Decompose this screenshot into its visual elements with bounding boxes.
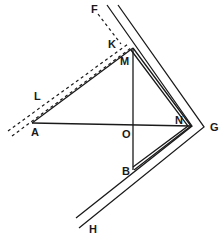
label-m: M [120,55,129,67]
label-f: F [91,3,98,15]
label-h: H [89,223,97,235]
label-a: A [31,126,39,138]
label-o: O [122,128,131,140]
label-k: K [108,38,116,50]
label-n: N [175,114,183,126]
geometry-diagram: F K M L A O N G B H [0,0,222,235]
edge-a-m [32,48,133,123]
dashed-line-2 [12,48,131,136]
line-a-n [32,123,191,126]
label-g: G [210,121,219,133]
label-l: L [34,90,41,102]
dashed-line-1 [8,44,128,131]
outer-v-line [76,5,192,218]
label-b: B [122,165,130,177]
